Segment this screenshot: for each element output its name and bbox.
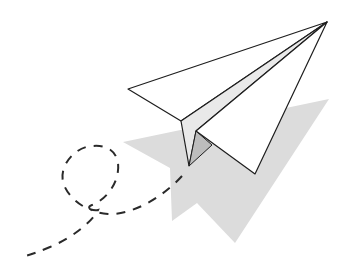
- paper-airplane-illustration: [0, 0, 351, 266]
- paper-airplane-svg: [0, 0, 351, 266]
- dashed-flight-trail: [20, 146, 182, 257]
